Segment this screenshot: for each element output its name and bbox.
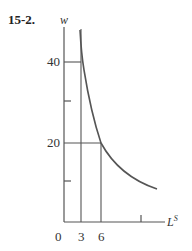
origin-label: 0	[55, 229, 62, 245]
x-axis-label-sup: S	[174, 214, 178, 223]
chart-plot	[0, 0, 192, 251]
x-axis-label-main: L	[167, 215, 174, 229]
x-tick-label-6: 6	[98, 229, 105, 245]
y-axis-label: w	[60, 13, 68, 28]
y-tick-label-20: 20	[47, 135, 60, 151]
supply-curve	[80, 30, 157, 189]
x-axis-label: LS	[167, 214, 178, 230]
y-tick-label-40: 40	[47, 54, 60, 70]
x-tick-label-3: 3	[78, 229, 85, 245]
